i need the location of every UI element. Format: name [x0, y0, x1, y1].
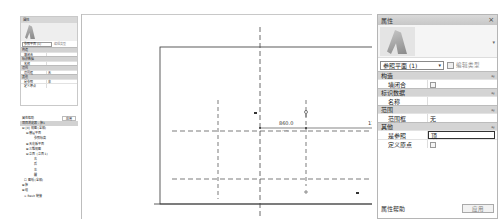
prop-row-name: 名称 [378, 96, 497, 105]
section-label: 范围 [381, 105, 393, 114]
is-reference-field[interactable]: 顶 [428, 131, 495, 139]
prop-key: 墙闭合 [378, 80, 428, 88]
mini-value[interactable]: 无 [47, 71, 77, 75]
section-label: 构造 [381, 71, 393, 80]
mini-type-selector[interactable]: 参照平面 (1) [22, 42, 52, 47]
mini-project-browser: 属性帮助 应用 项目浏览器 - 族1 ⊟ [0] 视图 (全部) ⊟ 楼层平面 … [20, 115, 78, 215]
collapse-icon[interactable]: ≈ [491, 124, 495, 130]
edit-type-button[interactable]: 编辑类型 [447, 61, 480, 69]
dimension-1120[interactable]: 1120.0 [368, 120, 372, 126]
edit-type-label: 编辑类型 [456, 61, 480, 69]
wall-closure-checkbox[interactable] [430, 82, 436, 88]
prop-row-scope-box: 范围框 无 [378, 113, 497, 122]
prop-key: 是参照 [378, 131, 428, 139]
properties-panel: 属性 × ▾ 参照平面 (1) ▾ 编辑类型 构造 ≈ 墙闭合 标识数据 ≈ 名… [377, 14, 498, 219]
lock-icon [254, 112, 257, 114]
tree-item[interactable]: ∞ Revit 链接 [20, 194, 78, 199]
outer-rectangle [160, 47, 372, 204]
properties-title: 属性 [381, 16, 393, 25]
mini-value[interactable] [47, 62, 77, 66]
edit-type-icon [447, 62, 454, 69]
dropdown-arrow-icon[interactable]: ▾ [438, 62, 441, 68]
mini-key: 范围框 [21, 71, 47, 75]
mini-key: 定义原点 [21, 84, 47, 88]
family-thumbnail [380, 27, 415, 56]
lock-icon [356, 192, 359, 194]
mini-value[interactable] [47, 84, 77, 88]
mini-value[interactable]: 非 [47, 80, 77, 84]
prop-key: 名称 [378, 97, 428, 105]
close-icon[interactable]: × [488, 16, 494, 24]
section-identity-data[interactable]: 标识数据 ≈ [378, 88, 497, 96]
prop-row-is-reference: 是参照 顶 [378, 130, 497, 139]
mini-key: 是参照 [21, 80, 47, 84]
type-preview: ▾ [378, 25, 497, 58]
defines-origin-checkbox[interactable] [430, 142, 436, 148]
mini-properties-panel: 属性 参照平面 (1) 编辑类型 构造 墙闭合 标识数据 名称 范围 范围框无 … [20, 16, 78, 106]
family-drawing[interactable]: 860.0 1120.0 ⌐¬ [82, 14, 372, 219]
section-construction[interactable]: 构造 ≈ [378, 71, 497, 79]
section-extents[interactable]: 范围 ≈ [378, 105, 497, 113]
collapse-icon[interactable]: ≈ [491, 90, 495, 96]
prop-row-defines-origin: 定义原点 [378, 139, 497, 148]
endpoint-marker [305, 191, 307, 193]
section-other[interactable]: 其他 ≈ [378, 122, 497, 130]
collapse-icon[interactable]: ≈ [491, 107, 495, 113]
dimension-860[interactable]: 860.0 [279, 120, 293, 126]
mini-value[interactable] [47, 53, 77, 57]
collapse-icon[interactable]: ≈ [491, 73, 495, 79]
type-selector-value: 参照平面 (1) [383, 61, 417, 70]
mini-key: 墙闭合 [21, 53, 47, 57]
chevron-down-icon[interactable]: ▾ [492, 39, 495, 45]
section-label: 标识数据 [381, 88, 405, 97]
mini-browser-tree: ⊟ [0] 视图 (全部) ⊟ 楼层平面 参照标高 ⊞ 天花板平面 ⊞ 三维视图… [20, 126, 78, 199]
mini-apply-button[interactable]: 应用 [62, 116, 76, 121]
family-thumbnail-icon [387, 30, 407, 54]
prop-key: 范围框 [378, 114, 428, 122]
prop-value [428, 140, 497, 148]
prop-key: 定义原点 [378, 140, 428, 148]
mini-key: 名称 [21, 62, 47, 66]
family-thumbnail-icon [25, 25, 35, 39]
drawing-canvas[interactable]: 860.0 1120.0 ⌐¬ [81, 14, 371, 219]
properties-titlebar: 属性 × [378, 15, 497, 25]
name-field[interactable] [428, 97, 497, 105]
section-label: 其他 [381, 122, 393, 131]
eq-symbol: ⌐¬ [282, 129, 288, 133]
apply-button[interactable]: 应用 [462, 204, 494, 213]
mini-type-preview [21, 23, 77, 41]
prop-value [428, 80, 497, 88]
type-selector[interactable]: 参照平面 (1) ▾ [380, 61, 444, 70]
scope-box-field[interactable]: 无 [428, 114, 497, 122]
prop-row-wall-closure: 墙闭合 [378, 79, 497, 88]
properties-help-link[interactable]: 属性帮助 [381, 204, 405, 213]
mini-edit-type-button[interactable]: 编辑类型 [54, 42, 66, 46]
